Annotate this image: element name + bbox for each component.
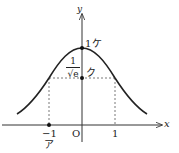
marker-ku: ク [86, 68, 96, 78]
x-minus-one-point [47, 123, 51, 127]
origin-label: O [72, 129, 80, 139]
fraction-one-over-root-e: 1 √e [65, 57, 81, 79]
x-axis-label: x [164, 119, 170, 129]
peak-value-label: 1 [85, 39, 91, 49]
marker-a: ア [44, 140, 54, 150]
fraction-bar [66, 67, 80, 68]
y-axis-label: y [77, 4, 82, 14]
marker-ke: ケ [92, 39, 102, 49]
fraction-numerator: 1 [65, 57, 81, 66]
peak-point [80, 46, 84, 50]
fraction-denominator: √e [65, 69, 81, 79]
x-tick-minus-one: −1 [42, 129, 57, 139]
x-tick-one: 1 [112, 129, 118, 139]
